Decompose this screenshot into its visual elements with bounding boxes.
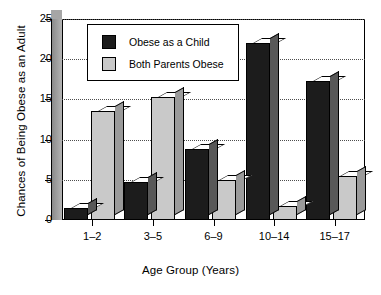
bar-side-face: [357, 166, 366, 215]
legend-label: Both Parents Obese: [129, 57, 224, 72]
y-tick-label: 20: [22, 53, 52, 64]
bar-front-face: [64, 208, 88, 220]
legend-label: Obese as a Child: [129, 35, 210, 50]
axis-wall-left: [51, 19, 62, 220]
bar-side-face: [270, 33, 279, 215]
bar: [306, 81, 330, 220]
y-axis-title: Chances of Being Obese as an Adult: [15, 5, 27, 237]
bar-front-face: [185, 149, 209, 220]
plot-area: 0510152025 1–23–56–910–1415–17 Obese as …: [62, 19, 365, 220]
y-tick-label: 25: [22, 13, 52, 24]
legend-swatch-black-icon: [102, 35, 116, 49]
bar-side-face: [115, 101, 124, 215]
bar-side-face: [330, 71, 339, 215]
bar: [185, 149, 209, 220]
bar-front-face: [124, 182, 148, 220]
x-tick-mark: [274, 220, 275, 226]
x-tick-label: 10–14: [239, 230, 309, 242]
bar-front-face: [306, 81, 330, 220]
x-tick-label: 1–2: [57, 230, 127, 242]
bar-side-face: [148, 172, 157, 215]
bar-side-face: [175, 87, 184, 215]
x-tick-label: 6–9: [179, 230, 249, 242]
y-tick-label: 5: [22, 174, 52, 185]
bar: [64, 208, 88, 220]
y-tick-label: 0: [22, 214, 52, 225]
legend: Obese as a Child Both Parents Obese: [87, 24, 239, 81]
x-tick-mark: [92, 220, 93, 226]
x-tick-label: 15–17: [300, 230, 370, 242]
axis-wall-top: [51, 10, 62, 19]
x-axis-title: Age Group (Years): [0, 264, 381, 276]
x-tick-mark: [153, 220, 154, 226]
x-tick-label: 3–5: [118, 230, 188, 242]
bar: [246, 43, 270, 220]
bar-chart: Chances of Being Obese as an Adult Age G…: [0, 0, 381, 295]
x-tick-mark: [214, 220, 215, 226]
bar-front-face: [246, 43, 270, 220]
y-tick-label: 10: [22, 134, 52, 145]
legend-swatch-gray-icon: [102, 57, 116, 71]
y-tick-label: 15: [22, 93, 52, 104]
gridline: [62, 19, 365, 20]
bar: [124, 182, 148, 220]
bar-side-face: [236, 170, 245, 215]
bar-side-face: [209, 139, 218, 215]
x-tick-mark: [335, 220, 336, 226]
